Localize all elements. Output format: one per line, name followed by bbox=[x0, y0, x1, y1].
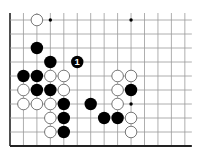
white-stone[interactable] bbox=[125, 70, 137, 82]
white-stone-icon bbox=[45, 112, 57, 124]
white-stone[interactable] bbox=[18, 98, 30, 110]
black-stone[interactable] bbox=[98, 112, 110, 124]
black-stone[interactable]: 1 bbox=[71, 56, 83, 68]
white-stone-icon bbox=[18, 84, 30, 96]
black-stone-icon bbox=[85, 98, 97, 110]
black-stone[interactable] bbox=[44, 84, 56, 96]
move-number-label: 1 bbox=[75, 56, 81, 67]
white-stone-icon bbox=[45, 126, 57, 138]
white-stone[interactable] bbox=[45, 112, 57, 124]
white-stone-icon bbox=[31, 98, 43, 110]
white-stone[interactable] bbox=[31, 14, 43, 26]
black-stone[interactable] bbox=[125, 84, 137, 96]
white-stone-icon bbox=[58, 70, 70, 82]
white-stone-icon bbox=[31, 14, 43, 26]
black-stone[interactable] bbox=[31, 84, 43, 96]
white-stone-icon bbox=[125, 70, 137, 82]
black-stone-icon bbox=[44, 84, 56, 96]
white-stone-icon bbox=[112, 70, 124, 82]
black-stone[interactable] bbox=[17, 70, 29, 82]
black-stone-icon bbox=[17, 70, 29, 82]
white-stone[interactable] bbox=[125, 126, 137, 138]
white-stone[interactable] bbox=[18, 84, 30, 96]
black-stone-icon bbox=[98, 112, 110, 124]
white-stone[interactable] bbox=[45, 98, 57, 110]
black-stone-icon bbox=[58, 98, 70, 110]
black-stone-icon bbox=[31, 84, 43, 96]
black-stone-icon bbox=[58, 126, 70, 138]
white-stone[interactable] bbox=[45, 70, 57, 82]
white-stone-icon bbox=[58, 84, 70, 96]
white-stone[interactable] bbox=[125, 112, 137, 124]
black-stone[interactable] bbox=[31, 70, 43, 82]
black-stone[interactable] bbox=[58, 98, 70, 110]
star-point-icon bbox=[49, 18, 52, 21]
black-stone[interactable] bbox=[58, 112, 70, 124]
go-board: 1 bbox=[0, 0, 201, 156]
white-stone-icon bbox=[18, 98, 30, 110]
black-stone-icon bbox=[31, 70, 43, 82]
black-stone-icon bbox=[31, 42, 43, 54]
black-stone[interactable] bbox=[58, 126, 70, 138]
black-stone-icon bbox=[58, 112, 70, 124]
black-stone-icon bbox=[44, 56, 56, 68]
star-point-icon bbox=[129, 102, 132, 105]
black-stone[interactable] bbox=[44, 56, 56, 68]
black-stone-icon bbox=[125, 84, 137, 96]
star-point-icon bbox=[129, 18, 132, 21]
white-stone-icon bbox=[125, 126, 137, 138]
white-stone-icon bbox=[112, 84, 124, 96]
white-stone[interactable] bbox=[58, 84, 70, 96]
white-stone[interactable] bbox=[45, 126, 57, 138]
white-stone[interactable] bbox=[112, 84, 124, 96]
black-stone[interactable] bbox=[31, 42, 43, 54]
black-stone[interactable] bbox=[111, 112, 123, 124]
white-stone-icon bbox=[45, 70, 57, 82]
white-stone-icon bbox=[125, 112, 137, 124]
white-stone-icon bbox=[112, 98, 124, 110]
white-stone[interactable] bbox=[112, 70, 124, 82]
black-stone-icon bbox=[111, 112, 123, 124]
white-stone[interactable] bbox=[58, 70, 70, 82]
white-stone[interactable] bbox=[31, 98, 43, 110]
white-stone-icon bbox=[45, 98, 57, 110]
black-stone[interactable] bbox=[85, 98, 97, 110]
white-stone[interactable] bbox=[112, 98, 124, 110]
